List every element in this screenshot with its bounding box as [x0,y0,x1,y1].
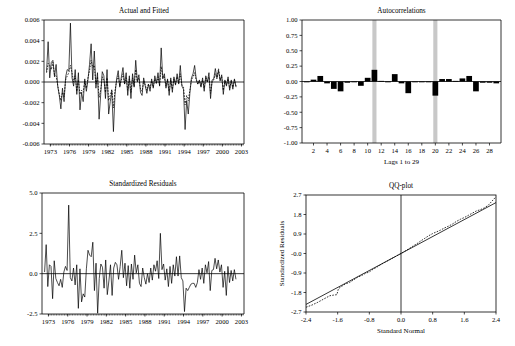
chart-panel-actual-and-fitted: Actual and Fitted0.0060.0040.0020.000-0.… [0,0,258,173]
acf-bar [453,81,459,82]
acf-bar [392,74,398,81]
x-tick-label: 6 [339,147,343,154]
y-tick-label: -0.50 [284,109,298,116]
chart-autocorrelations: Autocorrelations1.000.750.500.250.00-0.2… [258,0,515,173]
acf-bar [466,76,472,82]
chart-qq-plot: QQ-plot2.71.80.9-0.0-0.9-1.8-2.7-2.4-1.6… [258,173,515,346]
x-axis-label: Lags 1 to 29 [384,158,419,166]
x-tick-label: -0.8 [364,316,375,323]
x-tick-label: 1994 [177,318,191,325]
chart-title: Autocorrelations [377,7,426,15]
acf-bar [317,76,323,82]
x-tick-label: 12 [378,147,385,154]
x-tick-label: 2003 [235,148,249,155]
series-solid [45,205,236,313]
x-tick-label: 1997 [197,148,211,155]
y-tick-label: 0.0 [29,270,38,277]
x-tick-label: 1976 [63,148,77,155]
x-tick-label: 28 [486,147,493,154]
y-tick-label: -2.7 [291,308,302,315]
chart-title: Standardized Residuals [109,180,176,188]
y-tick-label: 0.004 [25,37,41,44]
x-tick-label: 4 [325,147,329,154]
acf-bar [432,82,438,96]
acf-bar [324,82,330,84]
y-tick-label: -0.002 [22,99,39,106]
acf-bar [344,82,350,83]
x-tick-label: 2.4 [492,316,501,323]
series-solid [47,23,236,132]
chart-standardized-residuals: Standardized Residuals5.02.50.0-2.519731… [0,173,258,346]
y-tick-label: -0.9 [291,269,302,276]
x-tick-label: 1994 [178,148,192,155]
y-tick-label: -0.006 [22,140,40,147]
x-tick-label: 1988 [138,318,152,325]
x-tick-label: 22 [446,147,453,154]
chart-title: QQ-plot [389,182,413,190]
acf-bar [473,82,479,92]
acf-bar [311,80,317,82]
x-tick-label: 2 [312,147,315,154]
acf-bar [351,82,357,83]
acf-bar [331,82,337,89]
x-tick-label: 8 [352,147,356,154]
y-tick-label: 1.8 [293,211,302,218]
x-tick-label: 1979 [82,148,96,155]
y-tick-label: 0.50 [286,47,298,54]
acf-bar [412,82,418,83]
acf-bar [446,79,452,81]
acf-bar [405,82,411,94]
x-tick-label: 10 [364,147,371,154]
chart-panel-qq-plot: QQ-plot2.71.80.9-0.0-0.9-1.8-2.7-2.4-1.6… [258,173,515,346]
y-axis-label: Standardized Residuals [278,220,286,286]
acf-bar [378,81,384,82]
acf-bar [480,82,486,83]
chart-panel-standardized-residuals: Standardized Residuals5.02.50.0-2.519731… [0,173,258,346]
x-tick-label: 1985 [120,148,134,155]
x-tick-label: 20 [432,147,439,154]
x-tick-label: 0.8 [429,316,438,323]
acf-bar [385,82,391,83]
x-tick-label: 26 [473,147,480,154]
x-tick-label: 14 [391,147,398,154]
x-tick-label: 2003 [235,318,249,325]
y-tick-label: -0.004 [22,120,40,127]
acf-bar [439,79,445,81]
y-tick-label: -0.75 [284,124,298,131]
series-dashed [47,60,236,108]
acf-bar [304,82,310,83]
x-tick-label: -2.4 [301,316,312,323]
acf-bar [399,82,405,84]
y-tick-label: 0.000 [25,78,41,85]
x-tick-label: 1976 [61,318,75,325]
x-tick-label: 1991 [158,148,171,155]
y-tick-label: -0.25 [284,93,298,100]
x-tick-label: 1997 [196,318,210,325]
acf-bar [338,82,344,92]
acf-bar [487,82,493,83]
y-tick-label: 0.002 [25,58,40,65]
y-tick-label: 0.00 [286,78,298,85]
x-tick-label: 2000 [216,148,230,155]
figure-canvas: Actual and Fitted0.0060.0040.0020.000-0.… [0,0,515,346]
acf-bar [419,82,425,83]
x-tick-label: 0.0 [397,316,406,323]
y-tick-label: 0.25 [286,62,298,69]
y-tick-label: -1.00 [284,139,298,146]
y-tick-label: 2.7 [293,191,302,198]
chart-actual-and-fitted: Actual and Fitted0.0060.0040.0020.000-0.… [0,0,258,173]
y-tick-label: -2.5 [27,310,38,317]
x-tick-label: 1982 [100,318,113,325]
y-tick-label: 2.5 [29,230,38,237]
x-tick-label: 1988 [139,148,153,155]
acf-bar [426,82,432,83]
y-tick-label: 0.75 [286,32,298,39]
chart-panel-autocorrelations: Autocorrelations1.000.750.500.250.00-0.2… [258,0,515,173]
acf-bar [358,82,364,86]
x-tick-label: 1985 [119,318,133,325]
x-tick-label: 18 [419,147,426,154]
acf-bar [493,82,499,84]
acf-bar [372,70,378,82]
chart-title: Actual and Fitted [119,7,169,15]
x-axis-label: Standard Normal [377,327,425,335]
